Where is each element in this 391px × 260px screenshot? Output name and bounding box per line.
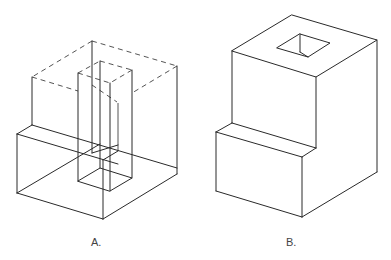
figure-a-visible-edges	[17, 41, 177, 219]
figure-a-label: A.	[91, 236, 101, 248]
figures-canvas	[0, 0, 391, 260]
figure-a-hidden-edges	[32, 41, 177, 102]
figure-b-drawing	[216, 15, 377, 217]
figure-b-label: B.	[286, 236, 296, 248]
figure-a-drawing	[17, 41, 177, 219]
square-hole	[277, 34, 330, 57]
